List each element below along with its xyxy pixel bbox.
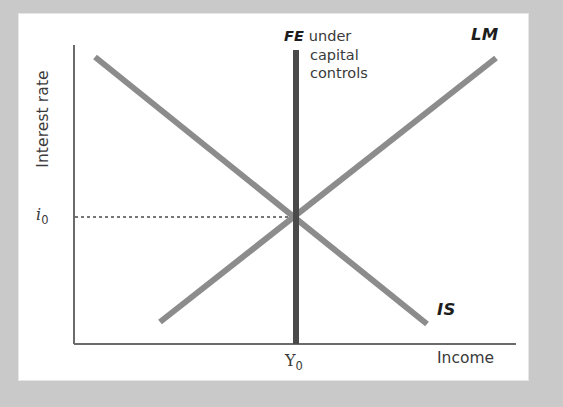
fe-annotation-rest: under [304,28,351,44]
fe-curve-label: FE [284,28,304,44]
x-tick-label-y0: Y0 [285,351,303,373]
x-tick-base: Y [285,351,296,370]
chart-canvas [0,0,563,407]
y-tick-label-i0: i0 [36,205,48,227]
fe-annotation-line-1: FE under [284,27,368,46]
fe-annotation: FE under capital controls [284,27,368,83]
curve-is [95,57,427,324]
y-tick-subscript: 0 [41,213,48,227]
lm-curve-label: LM [471,25,499,44]
is-curve-label: IS [437,300,456,319]
fe-annotation-line-3: controls [284,64,368,83]
y-axis-title: Interest rate [34,59,52,179]
fe-annotation-line-2: capital [284,46,368,65]
curve-lm [160,58,496,322]
x-axis-title: Income [437,349,494,367]
x-tick-subscript: 0 [296,359,303,373]
figure-container: Interest rate Income i0 Y0 FE under capi… [0,0,563,407]
